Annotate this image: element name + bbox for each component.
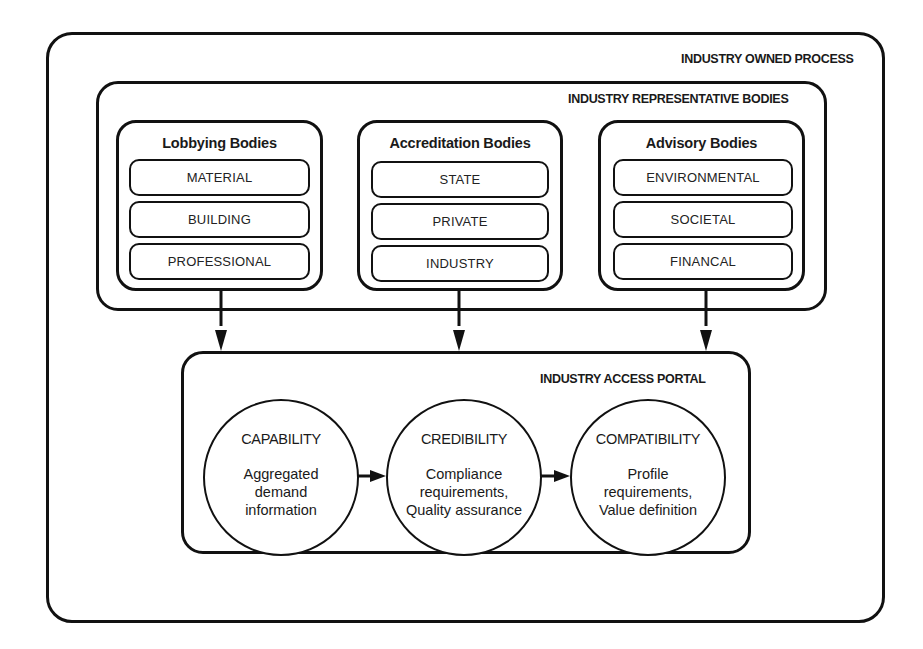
accreditation-item-industry: INDUSTRY (371, 245, 549, 282)
compatibility-description: Profile requirements, Value definition (580, 465, 716, 519)
capability-line-3: information (213, 501, 349, 519)
credibility-line-3: Quality assurance (396, 501, 532, 519)
capability-line-1: Aggregated (213, 465, 349, 483)
credibility-title: CREDIBILITY (388, 431, 540, 447)
lobbying-item-material: MATERIAL (129, 159, 310, 196)
capability-description: Aggregated demand information (213, 465, 349, 519)
compatibility-line-2: requirements, (580, 483, 716, 501)
compatibility-line-3: Value definition (580, 501, 716, 519)
capability-circle: CAPABILITY Aggregated demand information (203, 399, 359, 556)
compatibility-line-1: Profile (580, 465, 716, 483)
accreditation-item-private: PRIVATE (371, 203, 549, 240)
capability-title: CAPABILITY (205, 431, 357, 447)
lobbying-item-building: BUILDING (129, 201, 310, 238)
credibility-line-1: Compliance (396, 465, 532, 483)
credibility-description: Compliance requirements, Quality assuran… (396, 465, 532, 519)
accreditation-bodies-title: Accreditation Bodies (360, 135, 560, 151)
advisory-bodies-title: Advisory Bodies (601, 135, 802, 151)
industry-owned-process-label: INDUSTRY OWNED PROCESS (681, 52, 854, 66)
credibility-circle: CREDIBILITY Compliance requirements, Qua… (386, 399, 542, 556)
compatibility-circle: COMPATIBILITY Profile requirements, Valu… (570, 399, 726, 556)
credibility-line-2: requirements, (396, 483, 532, 501)
lobbying-bodies-title: Lobbying Bodies (119, 135, 320, 151)
capability-line-2: demand (213, 483, 349, 501)
advisory-bodies-box: Advisory Bodies ENVIRONMENTAL SOCIETAL F… (598, 120, 805, 291)
industry-representative-bodies-label: INDUSTRY REPRESENTATIVE BODIES (568, 92, 788, 106)
advisory-item-financal: FINANCAL (613, 243, 793, 280)
lobbying-bodies-box: Lobbying Bodies MATERIAL BUILDING PROFES… (116, 120, 323, 291)
advisory-item-environmental: ENVIRONMENTAL (613, 159, 793, 196)
accreditation-bodies-box: Accreditation Bodies STATE PRIVATE INDUS… (357, 120, 563, 291)
compatibility-title: COMPATIBILITY (572, 431, 724, 447)
industry-access-portal-label: INDUSTRY ACCESS PORTAL (540, 372, 706, 386)
accreditation-item-state: STATE (371, 161, 549, 198)
lobbying-item-professional: PROFESSIONAL (129, 243, 310, 280)
advisory-item-societal: SOCIETAL (613, 201, 793, 238)
